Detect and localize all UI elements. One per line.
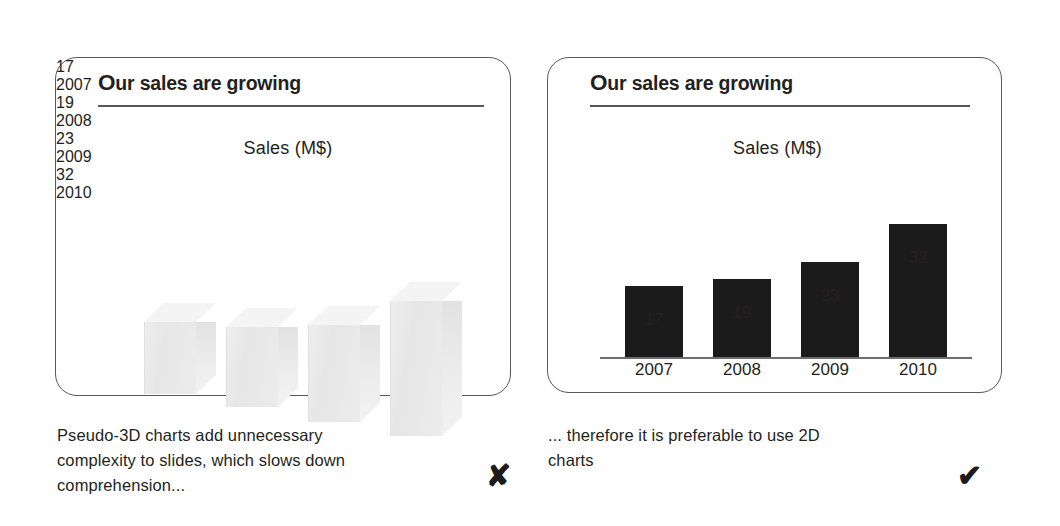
- bar-2d-2009: [801, 262, 859, 357]
- panel-pseudo-3d: Our sales are growing Sales (M$) 1720071…: [55, 57, 511, 396]
- bar-3d-top-face: [308, 306, 380, 325]
- bar-2d-category-label: 2007: [619, 360, 689, 380]
- bar-3d-side-face: [360, 325, 380, 422]
- bar-3d-top-face: [390, 282, 462, 301]
- bar-3d-front-face: [308, 325, 361, 422]
- bar-2d-value-label: 23: [801, 286, 859, 306]
- bar-3d-category-label: 2008: [56, 112, 116, 130]
- bar-3d-2010: [390, 282, 462, 436]
- bar-3d-side-face: [196, 322, 216, 394]
- bar-3d-category-label: 2010: [56, 184, 116, 202]
- bar-2d-2010: [889, 224, 947, 357]
- bar-3d-top-face: [226, 308, 298, 327]
- bar-3d-value-label: 32: [56, 166, 108, 184]
- cross-mark-icon: ✘: [486, 461, 511, 491]
- chart-pseudo-3d: 172007192008232009322010: [56, 58, 510, 395]
- bar-3d-top-face: [144, 303, 216, 322]
- bar-2d-value-label: 17: [625, 310, 683, 330]
- bar-3d-category-label: 2009: [56, 148, 116, 166]
- panel-flat-2d: Our sales are growing Sales (M$) 1720071…: [547, 57, 1002, 393]
- bar-3d-side-face: [442, 301, 462, 436]
- bar-2d-category-label: 2009: [795, 360, 865, 380]
- bar-3d-value-label: 23: [56, 130, 108, 148]
- bar-3d-front-face: [390, 301, 443, 436]
- check-mark-icon: ✔: [957, 461, 982, 491]
- bar-2d-value-label: 32: [889, 248, 947, 268]
- caption-pseudo-3d: Pseudo-3D charts add unnecessary complex…: [57, 423, 447, 498]
- bar-3d-value-label: 17: [56, 58, 108, 76]
- bar-2d-value-label: 19: [713, 303, 771, 323]
- caption-flat-2d: ... therefore it is preferable to use 2D…: [548, 423, 948, 473]
- bar-3d-front-face: [144, 322, 197, 394]
- bar-2d-category-label: 2008: [707, 360, 777, 380]
- chart-flat-2d: 172007192008232009322010: [548, 58, 1001, 392]
- bar-3d-value-label: 19: [56, 94, 108, 112]
- bar-3d-2008: [226, 308, 298, 407]
- x-axis-baseline: [600, 357, 972, 359]
- bar-3d-side-face: [278, 327, 298, 407]
- bar-3d-2007: [144, 303, 216, 394]
- bar-3d-front-face: [226, 327, 279, 407]
- bar-3d-category-label: 2007: [56, 76, 116, 94]
- bar-3d-2009: [308, 306, 380, 422]
- bar-2d-category-label: 2010: [883, 360, 953, 380]
